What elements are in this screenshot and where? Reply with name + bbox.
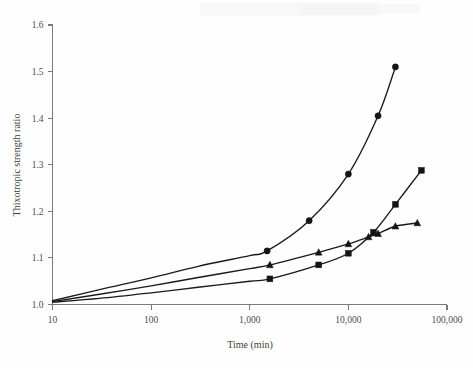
y-tick-label: 1.0 <box>32 300 44 310</box>
x-tick-label: 10 <box>48 315 58 325</box>
data-point-circle <box>345 171 351 177</box>
series-curve <box>53 223 418 302</box>
data-point-circle <box>392 64 398 70</box>
data-point-circle <box>375 113 381 119</box>
y-tick-label: 1.4 <box>32 114 44 124</box>
data-point-circle <box>306 218 312 224</box>
y-tick-label: 1.5 <box>32 67 44 77</box>
series-curve <box>53 170 422 302</box>
chart-figure: 101001,00010,000100,000 1.01.11.21.31.41… <box>0 0 473 368</box>
x-tick-label: 10,000 <box>335 315 361 325</box>
x-tick-label: 1,000 <box>239 315 261 325</box>
series-curve <box>53 67 396 301</box>
chart-canvas: 101001,00010,000100,000 1.01.11.21.31.41… <box>0 0 473 368</box>
data-point-triangle <box>414 219 421 225</box>
y-tick-label: 1.6 <box>32 20 44 30</box>
x-tick-label: 100,000 <box>432 315 463 325</box>
y-tick-label: 1.1 <box>32 253 44 263</box>
y-tick-label: 1.2 <box>32 207 44 217</box>
data-point-square <box>345 250 351 256</box>
data-point-square <box>418 167 424 173</box>
data-point-square <box>267 276 273 282</box>
data-point-square <box>316 262 322 268</box>
series-triangle-series <box>53 219 421 301</box>
x-tick-label: 100 <box>144 315 159 325</box>
y-axis-ticks <box>48 25 53 305</box>
x-axis-ticks <box>53 305 448 310</box>
data-series-group <box>53 64 425 302</box>
y-axis-tick-labels: 1.01.11.21.31.41.51.6 <box>32 20 44 310</box>
y-axis-title: Thixotropic strength ratio <box>11 114 22 217</box>
series-circle-series <box>53 64 399 301</box>
data-point-circle <box>264 248 270 254</box>
x-axis-title: Time (min) <box>227 339 272 351</box>
x-axis-tick-labels: 101001,00010,000100,000 <box>48 315 463 325</box>
data-point-square <box>393 201 399 207</box>
y-tick-label: 1.3 <box>32 160 44 170</box>
data-point-square <box>371 229 377 235</box>
